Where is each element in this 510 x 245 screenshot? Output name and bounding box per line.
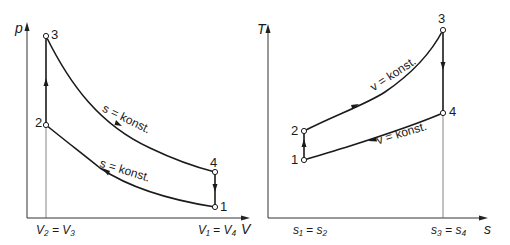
- state-point-2: [43, 122, 48, 127]
- s1-s2-tick-label: s₁ = s₂: [293, 224, 327, 236]
- v-axis-arrow-icon: [241, 216, 250, 221]
- point-label-1: 1: [291, 153, 298, 166]
- arrow-down-icon: [441, 62, 446, 70]
- arrow-up-icon: [302, 139, 307, 147]
- state-point-4: [212, 169, 217, 174]
- t-axis-label: T: [257, 22, 266, 36]
- state-point-1: [301, 157, 306, 162]
- state-point-3: [440, 27, 445, 32]
- s-axis-label: s: [484, 222, 491, 236]
- point-label-4: 4: [210, 156, 217, 169]
- s3-s4-tick-label: s₃ = s₄: [431, 224, 466, 236]
- s-axis-arrow-icon: [479, 216, 488, 221]
- p-axis-label: p: [15, 21, 23, 35]
- point-label-1: 1: [220, 200, 227, 213]
- state-point-2: [301, 128, 306, 133]
- point-label-2: 2: [35, 116, 42, 129]
- pv-diagram: p V 3 2 4 1 V₂ = V₃ V₁ = V₄ s = konst. s…: [0, 0, 255, 245]
- p-axis-arrow-icon: [25, 22, 30, 31]
- state-point-3: [43, 33, 48, 38]
- v2-v3-tick-label: V₂ = V₃: [36, 224, 75, 236]
- ts-diagram: T s 3 4 2 1 s₁ = s₂ s₃ = s₄ v = konst. v…: [255, 0, 510, 245]
- arrow-up-icon: [44, 78, 49, 86]
- arrow-down-icon: [213, 184, 218, 192]
- t-axis-arrow-icon: [266, 24, 271, 33]
- point-label-2: 2: [291, 124, 298, 137]
- point-label-4: 4: [449, 105, 456, 118]
- process-3-4: [46, 36, 215, 172]
- state-point-4: [440, 110, 445, 115]
- v1-v4-tick-label: V₁ = V₄: [198, 224, 236, 236]
- v-axis-label: V: [241, 222, 250, 236]
- point-label-3: 3: [438, 12, 445, 25]
- point-label-3: 3: [51, 28, 58, 41]
- state-point-1: [212, 204, 217, 209]
